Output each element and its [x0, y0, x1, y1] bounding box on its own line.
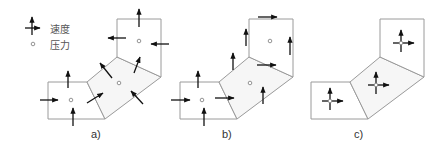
panel-c-label: c): [354, 128, 363, 140]
panel-b-label: b): [222, 128, 232, 140]
panel-b-grid: [180, 19, 293, 119]
legend-pressure-label: 压力: [50, 37, 70, 52]
panel-c-grid: [311, 19, 424, 119]
legend-pressure-icon: [31, 42, 35, 46]
panel-a-label: a): [91, 128, 101, 140]
legend-velocity-label: 速度: [50, 21, 70, 36]
legend-velocity-icon: [25, 17, 40, 35]
